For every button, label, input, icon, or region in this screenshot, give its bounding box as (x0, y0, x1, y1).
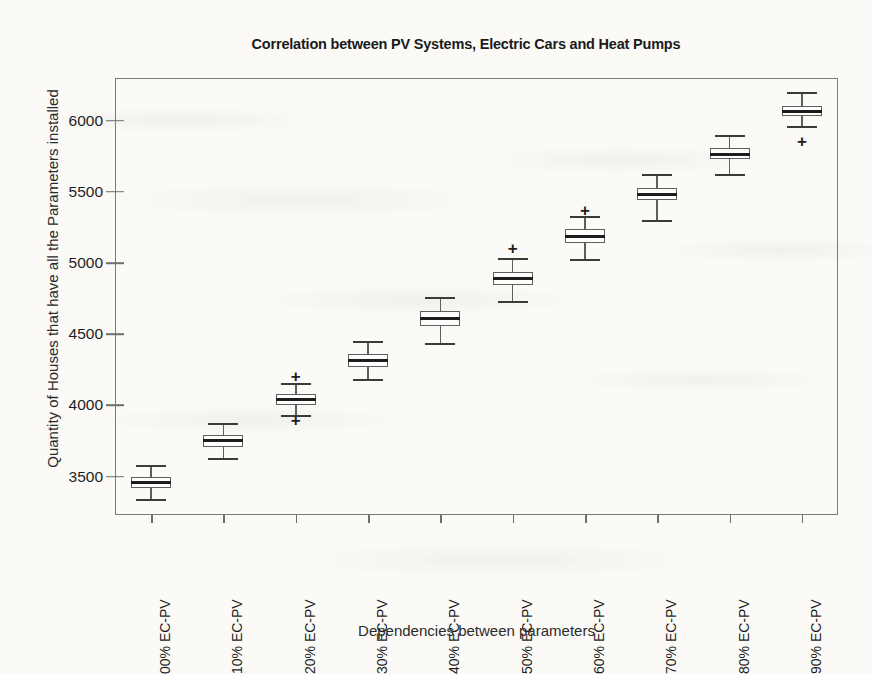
whisker-cap-upper (498, 258, 528, 260)
x-tick-label: 30% EC-PV (374, 524, 390, 674)
whisker-upper (512, 258, 514, 272)
y-tick-label: 3500 (0, 468, 103, 486)
y-tick-mark (106, 120, 115, 122)
whisker-cap-lower (787, 126, 817, 128)
y-tick-label: 6000 (0, 112, 103, 130)
whisker-cap-upper (425, 297, 455, 299)
median-line (565, 235, 605, 238)
y-tick-mark-inner (115, 120, 124, 122)
x-tick-mark (440, 515, 442, 523)
whisker-lower (801, 116, 803, 125)
x-tick-mark (151, 515, 153, 523)
whisker-cap-upper (136, 465, 166, 467)
whisker-lower (512, 285, 514, 301)
median-line (348, 359, 388, 362)
median-line (276, 398, 316, 401)
outlier-marker: + (291, 412, 301, 429)
whisker-upper (367, 341, 369, 354)
outlier-marker: + (291, 368, 301, 385)
whisker-upper (801, 92, 803, 106)
whisker-cap-upper (715, 135, 745, 137)
outlier-marker: + (580, 201, 590, 218)
x-tick-mark (585, 515, 587, 523)
median-line (637, 193, 677, 196)
outlier-marker: + (797, 133, 807, 150)
x-tick-mark (730, 515, 732, 523)
chart-title: Correlation between PV Systems, Electric… (0, 36, 872, 52)
y-tick-mark (106, 333, 115, 335)
y-tick-mark (106, 405, 115, 407)
whisker-cap-lower (715, 174, 745, 176)
x-axis-label: Dependencies between parameters (115, 622, 838, 639)
y-tick-mark-inner (115, 476, 124, 478)
x-tick-label: 80% EC-PV (736, 524, 752, 674)
whisker-cap-lower (353, 379, 383, 381)
y-tick-mark (106, 191, 115, 193)
median-line (131, 481, 171, 484)
median-line (203, 439, 243, 442)
y-tick-mark-inner (115, 333, 124, 335)
whisker-lower (440, 326, 442, 343)
whisker-cap-upper (353, 341, 383, 343)
y-tick-mark (106, 262, 115, 264)
whisker-lower (656, 200, 658, 220)
x-tick-mark (368, 515, 370, 523)
x-tick-label: 90% EC-PV (808, 524, 824, 674)
x-tick-label: 60% EC-PV (591, 524, 607, 674)
whisker-upper (729, 135, 731, 149)
whisker-cap-upper (787, 92, 817, 94)
outlier-marker: + (508, 240, 518, 257)
x-tick-mark (802, 515, 804, 523)
whisker-upper (440, 297, 442, 311)
whisker-cap-lower (208, 458, 238, 460)
y-tick-label: 5000 (0, 254, 103, 272)
whisker-cap-lower (570, 259, 600, 261)
y-tick-mark-inner (115, 262, 124, 264)
x-tick-label: 70% EC-PV (663, 524, 679, 674)
y-axis-label: Quantity of Houses that have all the Par… (44, 29, 61, 529)
x-tick-label: 00% EC-PV (157, 524, 173, 674)
median-line (710, 153, 750, 156)
whisker-lower (584, 243, 586, 259)
x-tick-label: 10% EC-PV (229, 524, 245, 674)
whisker-lower (223, 447, 225, 458)
y-tick-mark-inner (115, 405, 124, 407)
whisker-cap-upper (642, 174, 672, 176)
whisker-upper (656, 174, 658, 188)
x-tick-label: 20% EC-PV (302, 524, 318, 674)
whisker-cap-lower (425, 343, 455, 345)
x-tick-mark (513, 515, 515, 523)
y-tick-mark (106, 476, 115, 478)
whisker-lower (367, 367, 369, 379)
whisker-lower (150, 488, 152, 499)
x-tick-mark (657, 515, 659, 523)
whisker-cap-upper (208, 423, 238, 425)
median-line (782, 110, 822, 113)
whisker-cap-lower (498, 301, 528, 303)
whisker-cap-lower (136, 499, 166, 501)
whisker-lower (729, 159, 731, 174)
y-tick-mark-inner (115, 191, 124, 193)
x-tick-label: 40% EC-PV (446, 524, 462, 674)
median-line (420, 317, 460, 320)
whisker-cap-lower (642, 220, 672, 222)
x-tick-label: 50% EC-PV (519, 524, 535, 674)
x-tick-mark (223, 515, 225, 523)
median-line (493, 277, 533, 280)
y-tick-label: 4500 (0, 325, 103, 343)
y-tick-label: 4000 (0, 396, 103, 414)
x-tick-mark (296, 515, 298, 523)
y-tick-label: 5500 (0, 183, 103, 201)
